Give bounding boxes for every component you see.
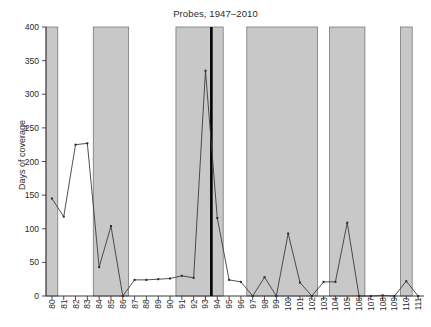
- x-axis-ticks: 8081828384858687888990919293949596979899…: [47, 296, 423, 311]
- x-tick-label: 101: [295, 297, 305, 311]
- plot-area: 050100150200250300350400 808182838485868…: [0, 0, 431, 327]
- y-tick-label: 200: [25, 157, 40, 167]
- data-point: [51, 197, 53, 199]
- x-tick-label: 106: [354, 297, 364, 311]
- data-point: [346, 222, 348, 224]
- x-tick-label: 85: [106, 299, 116, 309]
- x-tick-label: 90: [165, 299, 175, 309]
- data-point: [63, 216, 65, 218]
- x-tick-label: 91: [177, 299, 187, 309]
- x-tick-label: 87: [130, 299, 140, 309]
- x-tick-label: 95: [224, 299, 234, 309]
- shaded-band: [176, 27, 223, 296]
- data-point: [169, 278, 171, 280]
- data-point: [264, 276, 266, 278]
- x-tick-label: 86: [118, 299, 128, 309]
- data-point: [86, 142, 88, 144]
- y-tick-label: 400: [25, 22, 40, 32]
- x-tick-label: 81: [59, 299, 69, 309]
- x-tick-label: 111: [413, 297, 423, 310]
- x-tick-label: 82: [71, 299, 81, 309]
- x-tick-label: 96: [236, 299, 246, 309]
- shaded-bands-layer: [46, 27, 412, 296]
- shaded-band: [46, 27, 58, 296]
- x-tick-label: 103: [319, 297, 329, 311]
- x-tick-label: 83: [82, 299, 92, 309]
- x-tick-label: 98: [260, 299, 270, 309]
- y-tick-label: 350: [25, 56, 40, 66]
- shaded-band: [247, 27, 318, 296]
- data-point: [110, 225, 112, 227]
- data-point: [145, 279, 147, 281]
- data-point: [240, 281, 242, 283]
- data-point: [311, 295, 313, 297]
- data-point: [134, 279, 136, 281]
- x-tick-label: 110: [401, 297, 411, 311]
- data-point: [252, 295, 254, 297]
- x-tick-label: 107: [366, 297, 376, 311]
- y-tick-label: 100: [25, 224, 40, 234]
- x-tick-label: 102: [307, 297, 317, 311]
- data-point: [216, 217, 218, 219]
- data-point: [405, 280, 407, 282]
- data-point: [204, 70, 206, 72]
- y-tick-label: 150: [25, 190, 40, 200]
- data-point: [358, 295, 360, 297]
- x-tick-label: 97: [248, 299, 258, 309]
- shaded-band: [330, 27, 365, 296]
- x-tick-label: 108: [378, 297, 388, 311]
- data-point: [75, 144, 77, 146]
- data-point: [275, 295, 277, 297]
- y-tick-label: 0: [34, 291, 39, 301]
- x-tick-label: 89: [153, 299, 163, 309]
- x-tick-label: 80: [47, 299, 57, 309]
- x-tick-label: 93: [200, 299, 210, 309]
- data-point: [417, 295, 419, 297]
- shaded-band: [400, 27, 412, 296]
- data-point: [98, 266, 100, 268]
- data-point: [334, 281, 336, 283]
- y-tick-label: 300: [25, 89, 40, 99]
- x-tick-label: 104: [330, 297, 340, 311]
- data-point: [299, 282, 301, 284]
- x-tick-label: 94: [212, 299, 222, 309]
- data-point: [370, 295, 372, 297]
- data-point: [323, 281, 325, 283]
- data-point: [287, 232, 289, 234]
- data-point: [122, 295, 124, 297]
- data-point: [382, 294, 384, 296]
- x-tick-label: 105: [342, 297, 352, 311]
- chart-figure: Probes, 1947–2010 Days of coverage 05010…: [0, 0, 431, 327]
- x-tick-label: 100: [283, 297, 293, 311]
- x-tick-label: 92: [189, 299, 199, 309]
- x-tick-label: 109: [389, 297, 399, 311]
- x-tick-label: 99: [271, 299, 281, 309]
- data-point: [181, 275, 183, 277]
- y-axis-ticks: 050100150200250300350400: [25, 22, 46, 301]
- data-point: [193, 277, 195, 279]
- x-tick-label: 88: [141, 299, 151, 309]
- y-tick-label: 50: [29, 257, 39, 267]
- y-tick-label: 250: [25, 123, 40, 133]
- x-tick-label: 84: [94, 299, 104, 309]
- shaded-band: [93, 27, 128, 296]
- data-point: [157, 278, 159, 280]
- data-point: [393, 295, 395, 297]
- data-point: [228, 279, 230, 281]
